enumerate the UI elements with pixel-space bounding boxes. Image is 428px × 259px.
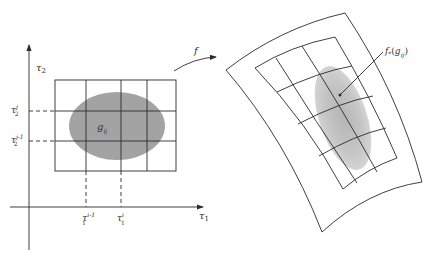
label-leader-dot [339,94,342,97]
y-axis-label: τ2 [36,62,46,75]
y-tick-tau2-j: τj2 [11,103,19,117]
image-panel: f*(gij) [226,13,422,232]
map-arrow: f [174,45,216,71]
y-tick-tau2-j-1: τj-12 [11,133,24,147]
x-tick-tau1-i-1: τi-11 [82,211,95,226]
diagram-canvas: τ2 τ1 τj2 τj-12 τi-11 τi1 gij f [0,0,428,259]
map-arrow-curve [174,57,216,71]
domain-panel: τ2 τ1 τj2 τj-12 τi-11 τi1 gij [10,45,209,250]
mapped-region-label: f*(gij) [384,46,408,59]
map-label-f: f [193,45,200,56]
mapped-region-blob [303,59,382,177]
label-leader [340,52,383,95]
region-blob-gij [69,92,165,160]
x-axis-label: τ1 [199,210,209,223]
x-tick-tau1-i: τi1 [117,211,125,226]
